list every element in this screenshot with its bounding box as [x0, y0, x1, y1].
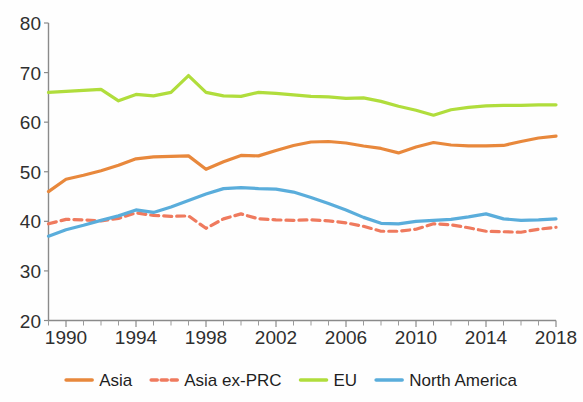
axis-spine [49, 23, 557, 321]
legend-label-asia-ex-prc: Asia ex-PRC [184, 371, 281, 390]
x-axis-tick-labels: 19901994199820022006201020142018 [45, 327, 577, 348]
y-axis-tick-labels: 80706050403020 [20, 13, 41, 332]
series-line-asia [49, 136, 557, 192]
x-tick-label: 1990 [45, 327, 87, 348]
x-tick-label: 2014 [465, 327, 508, 348]
chart-legend: AsiaAsia ex-PRCEUNorth America [66, 371, 517, 390]
y-tick-label: 20 [20, 311, 41, 332]
y-tick-label: 70 [20, 63, 41, 84]
data-series-group [49, 76, 557, 237]
x-tick-label: 2018 [535, 327, 577, 348]
y-tick-label: 60 [20, 112, 41, 133]
series-line-eu [49, 76, 557, 116]
chart-canvas: 80706050403020 1990199419982002200620102… [0, 0, 583, 402]
x-tick-label: 2002 [255, 327, 297, 348]
legend-label-eu: EU [334, 371, 358, 390]
y-tick-label: 40 [20, 211, 41, 232]
y-tick-label: 80 [20, 13, 41, 34]
x-tick-label: 2010 [395, 327, 437, 348]
x-tick-label: 1994 [115, 327, 158, 348]
x-tick-label: 1998 [185, 327, 227, 348]
x-axis-minor-tick-marks [49, 321, 539, 326]
y-tick-label: 50 [20, 162, 41, 183]
y-tick-label: 30 [20, 261, 41, 282]
axis-lines [49, 23, 557, 321]
legend-label-asia: Asia [99, 371, 133, 390]
legend-label-north-america: North America [409, 371, 517, 390]
x-tick-label: 2006 [325, 327, 367, 348]
line-chart: 80706050403020 1990199419982002200620102… [0, 0, 583, 402]
